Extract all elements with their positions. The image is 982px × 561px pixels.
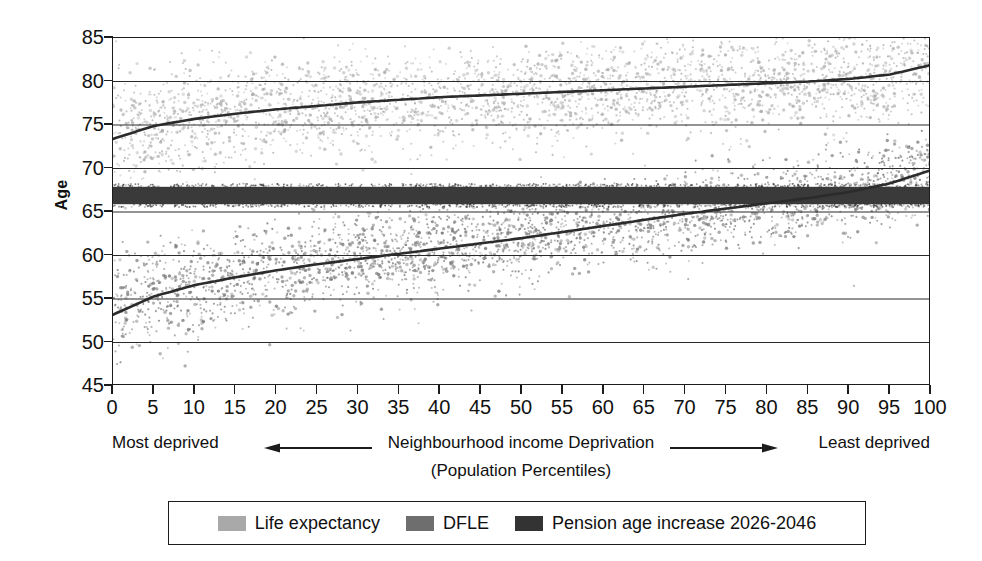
y-tick-label: 55 bbox=[58, 288, 104, 308]
y-tick-label: 75 bbox=[58, 114, 104, 134]
x-tick-mark bbox=[725, 385, 727, 394]
x-tick-mark bbox=[807, 385, 809, 394]
x-tick-mark bbox=[152, 385, 154, 394]
y-tick-label: 85 bbox=[58, 27, 104, 47]
y-tick-label: 65 bbox=[58, 201, 104, 221]
x-tick-mark bbox=[684, 385, 686, 394]
x-tick-mark bbox=[602, 385, 604, 394]
x-tick-mark bbox=[847, 385, 849, 394]
x-tick-mark bbox=[766, 385, 768, 394]
y-tick-mark bbox=[104, 36, 113, 38]
y-tick-label: 60 bbox=[58, 245, 104, 265]
legend-label: Life expectancy bbox=[255, 513, 380, 533]
y-axis-ticks: 455055606570758085 bbox=[56, 0, 104, 561]
legend-swatch-icon bbox=[406, 516, 434, 531]
y-tick-label: 80 bbox=[58, 71, 104, 91]
y-tick-mark bbox=[104, 254, 113, 256]
scatter-cloud bbox=[113, 118, 930, 367]
chart-legend: Life expectancyDFLEPension age increase … bbox=[168, 501, 866, 545]
y-tick-mark bbox=[104, 167, 113, 169]
x-tick-mark bbox=[234, 385, 236, 394]
y-tick-label: 70 bbox=[58, 158, 104, 178]
y-tick-mark bbox=[104, 210, 113, 212]
left-arrow-icon bbox=[264, 443, 372, 453]
legend-label: DFLE bbox=[443, 513, 489, 533]
legend-item[interactable]: Pension age increase 2026-2046 bbox=[515, 513, 816, 533]
plot-area bbox=[112, 37, 930, 385]
legend-item[interactable]: DFLE bbox=[406, 513, 489, 533]
plot-canvas bbox=[113, 38, 930, 385]
x-tick-mark bbox=[275, 385, 277, 394]
legend-swatch-icon bbox=[218, 516, 246, 531]
chart-figure: Age 455055606570758085 Most deprived Nei… bbox=[0, 0, 982, 561]
x-tick-mark bbox=[111, 385, 113, 394]
pension-age-band bbox=[113, 183, 930, 208]
x-tick-mark bbox=[479, 385, 481, 394]
legend-item[interactable]: Life expectancy bbox=[218, 513, 380, 533]
y-tick-mark bbox=[104, 341, 113, 343]
caption-subtitle: (Population Percentiles) bbox=[112, 461, 930, 481]
caption-least-deprived: Least deprived bbox=[818, 433, 930, 453]
x-tick-mark bbox=[561, 385, 563, 394]
x-tick-mark bbox=[357, 385, 359, 394]
x-tick-mark bbox=[316, 385, 318, 394]
x-tick-mark bbox=[888, 385, 890, 394]
y-tick-mark bbox=[104, 80, 113, 82]
legend-swatch-icon bbox=[515, 516, 543, 531]
x-tick-label: 100 bbox=[900, 396, 960, 418]
caption-most-deprived: Most deprived bbox=[112, 433, 219, 453]
y-tick-label: 45 bbox=[58, 375, 104, 395]
caption-axis-name: Neighbourhood income Deprivation bbox=[388, 433, 655, 453]
y-tick-mark bbox=[104, 297, 113, 299]
y-tick-mark bbox=[104, 123, 113, 125]
legend-label: Pension age increase 2026-2046 bbox=[552, 513, 816, 533]
x-tick-mark bbox=[520, 385, 522, 394]
x-axis-caption: Most deprived Neighbourhood income Depri… bbox=[112, 430, 930, 490]
y-tick-label: 50 bbox=[58, 332, 104, 352]
x-tick-mark bbox=[929, 385, 931, 394]
x-tick-mark bbox=[398, 385, 400, 394]
right-arrow-icon bbox=[670, 443, 778, 453]
x-tick-mark bbox=[193, 385, 195, 394]
x-tick-mark bbox=[643, 385, 645, 394]
x-tick-mark bbox=[438, 385, 440, 394]
